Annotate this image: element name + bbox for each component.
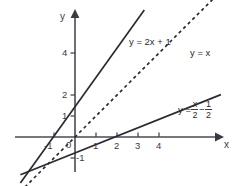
y-tick-label-2: 2 [62,90,67,100]
x-tick-label--1: -1 [44,141,52,151]
y-axis-arrow-icon [71,9,80,18]
y-axis-label: y [60,12,65,22]
equation-lead: y = [178,105,191,115]
equation-operator-minus: − [199,105,205,115]
x-tick-label-1: 1 [93,141,98,151]
curve-label-y-equals-2x-plus-1: y = 2x + 1 [129,37,171,47]
x-tick-label-2: 2 [114,141,119,151]
fraction-denominator-2: 2 [191,109,198,120]
fraction-x-over-2: x2 [191,100,198,120]
x-tick-label-4: 4 [156,141,161,151]
y-tick-label--1: -1 [76,153,84,163]
curve-label-y-equals-x-over-2-minus-1-over-2: y =x2−12 [178,100,213,120]
fraction-1-over-2: 12 [205,100,212,120]
coordinate-plot-figure: y x -1 1 2 3 4 0 4 2 1 -1 y = 2x + 1 y =… [0,0,238,186]
fraction-denominator-2-second: 2 [205,109,212,120]
y-tick-label-4: 4 [62,48,67,58]
fraction-numerator-x: x [191,100,198,110]
curve-label-y-equals-x: y = x [190,48,210,58]
x-axis-label: x [224,140,229,150]
origin-label: 0 [66,140,71,150]
line-y-equals-x [20,0,221,186]
x-axis-arrow-icon [215,133,224,142]
fraction-numerator-1: 1 [205,100,212,110]
x-tick-label-3: 3 [135,141,140,151]
plot-canvas [0,0,238,186]
y-tick-label-1: 1 [62,111,67,121]
